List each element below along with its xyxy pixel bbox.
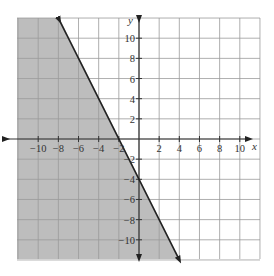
- y-tick-label: 4: [130, 94, 136, 105]
- x-tick-label: −4: [93, 143, 105, 154]
- x-tick-label: −10: [30, 143, 46, 154]
- x-tick-label: 2: [157, 143, 162, 154]
- y-tick-label: −2: [124, 154, 135, 165]
- inequality-graph: −10−8−6−4−2246810108642−2−4−6−8−10 x y: [0, 0, 274, 276]
- x-axis-label: x: [251, 140, 257, 152]
- x-tick-label: 10: [235, 143, 246, 154]
- y-tick-label: −10: [119, 235, 135, 246]
- x-tick-label: 8: [217, 143, 222, 154]
- y-tick-label: −6: [124, 194, 135, 205]
- x-tick-label: −6: [73, 143, 84, 154]
- y-tick-label: 8: [130, 53, 135, 64]
- y-axis-label: y: [127, 14, 133, 26]
- y-tick-label: 6: [130, 74, 135, 85]
- y-tick-label: 2: [130, 114, 135, 125]
- x-tick-label: −2: [113, 143, 124, 154]
- y-tick-label: −8: [124, 215, 135, 226]
- x-tick-label: −8: [53, 143, 64, 154]
- y-tick-label: 10: [125, 33, 136, 44]
- x-tick-label: 4: [177, 143, 183, 154]
- x-tick-label: 6: [197, 143, 202, 154]
- y-tick-label: −4: [124, 174, 136, 185]
